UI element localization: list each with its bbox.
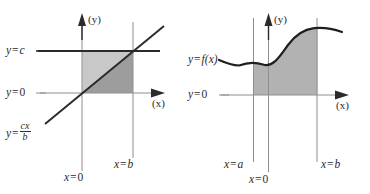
- axis-x-name: (x): [152, 97, 165, 109]
- general-function-panel: y=f(x) y=0 (y) (x) x=a x=0 x=b: [185, 0, 370, 194]
- label-x-equals-b: x=b: [114, 159, 133, 171]
- label-xa-rhs: a: [238, 158, 244, 170]
- label-y-equals-c-rhs: c: [20, 44, 25, 56]
- label-y-equals-c-op: =: [11, 44, 20, 56]
- fraction-denominator: b: [20, 131, 31, 142]
- label-x-equals-a: x=a: [224, 159, 243, 171]
- label-y0-op: =: [193, 88, 202, 100]
- y-axis-arrowhead: [265, 13, 273, 26]
- shaded-area-under-curve: [239, 28, 342, 95]
- general-function-plot: [185, 0, 370, 194]
- label-xb-op: =: [326, 158, 335, 170]
- label-x0-op: =: [254, 173, 263, 185]
- label-x-equals-b-op: =: [119, 158, 128, 170]
- label-x-equals-0: x=0: [64, 172, 83, 184]
- label-y-equals-fx: y=f(x): [188, 54, 218, 66]
- axis-y-name: (y): [88, 13, 101, 25]
- linear-ramp-panel: y=c y=0 y=cxb (y) (x) x=0 x=b: [0, 0, 185, 194]
- fraction-numerator: cx: [20, 121, 31, 131]
- label-xb-rhs: b: [335, 158, 341, 170]
- label-x0-rhs: 0: [263, 173, 269, 185]
- label-axis-x-left: (x): [152, 98, 165, 109]
- label-y0-rhs: 0: [202, 88, 208, 100]
- label-xa-op: =: [229, 158, 238, 170]
- label-x-equals-b: x=b: [321, 159, 340, 171]
- label-cxb-op: =: [11, 127, 20, 139]
- label-x-equals-0-op: =: [69, 171, 78, 183]
- label-y-equals-0-op: =: [11, 86, 20, 98]
- label-y-equals-0: y=0: [6, 87, 25, 99]
- line-y-equals-cx-over-b: [45, 26, 164, 124]
- label-y-equals-0-rhs: 0: [20, 86, 26, 98]
- label-x-equals-0: x=0: [249, 174, 268, 186]
- label-axis-y-right: (y): [274, 14, 287, 25]
- label-y-equals-0: y=0: [188, 89, 207, 101]
- fraction-cx-over-b: cxb: [20, 121, 31, 142]
- label-y-equals-cx-over-b: y=cxb: [6, 122, 31, 143]
- label-x-equals-0-rhs: 0: [78, 171, 84, 183]
- figure-area-under-curve: y=c y=0 y=cxb (y) (x) x=0 x=b: [0, 0, 370, 194]
- label-fx-arg: (x): [205, 53, 218, 65]
- label-axis-y-left: (y): [88, 14, 101, 25]
- axis-x-name: (x): [336, 99, 349, 111]
- label-fx-op: =: [193, 53, 202, 65]
- label-axis-x-right: (x): [336, 100, 349, 111]
- y-axis-arrowhead: [78, 13, 86, 26]
- label-x-equals-b-rhs: b: [128, 158, 134, 170]
- axis-y-name: (y): [274, 13, 287, 25]
- label-y-equals-c: y=c: [6, 45, 25, 57]
